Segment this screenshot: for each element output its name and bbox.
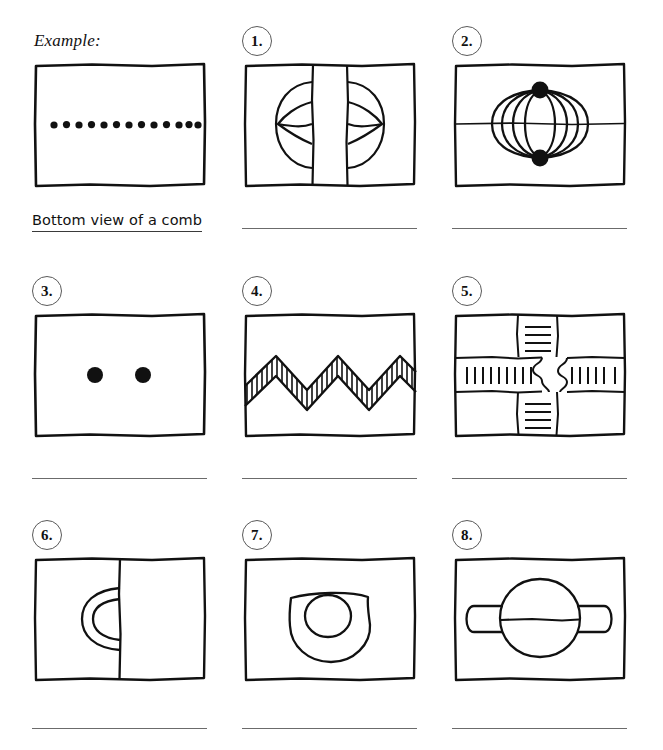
puzzle-figure-frame-5 <box>452 310 628 440</box>
puzzle-cell-5: 5. <box>422 264 632 514</box>
puzzle-header-4: 4. <box>242 274 272 308</box>
example-figure-frame <box>32 60 208 190</box>
answer-line-2[interactable] <box>452 228 627 229</box>
worksheet-page: Example: <box>0 0 663 750</box>
two-dots-icon <box>32 310 208 440</box>
puzzle-header-7: 7. <box>242 518 272 552</box>
puzzle-header-5: 5. <box>452 274 482 308</box>
puzzle-figure-frame-1 <box>242 60 418 190</box>
puzzle-header-6: 6. <box>32 518 62 552</box>
row-of-dots-icon <box>32 60 208 190</box>
puzzle-header-2: 2. <box>452 24 482 58</box>
puzzle-figure-frame-7 <box>242 554 418 684</box>
example-header: Example: <box>32 24 101 58</box>
circle-with-side-bars-icon <box>452 554 628 684</box>
puzzle-number-badge-8: 8. <box>452 520 482 550</box>
puzzle-number-badge-6: 6. <box>32 520 62 550</box>
example-label: Example: <box>32 31 101 51</box>
puzzle-cell-2: 2. <box>422 14 632 264</box>
globe-meridians-with-poles-icon <box>452 60 628 190</box>
puzzle-figure-frame-3 <box>32 310 208 440</box>
puzzle-cell-1: 1. <box>212 14 422 264</box>
puzzle-figure-frame-6 <box>32 554 208 684</box>
puzzle-figure-frame-8 <box>452 554 628 684</box>
interlocking-cross-bands-icon <box>452 310 628 440</box>
example-caption: Bottom view of a comb <box>32 212 202 232</box>
answer-line-7[interactable] <box>242 728 417 729</box>
puzzle-cell-4: 4. <box>212 264 422 514</box>
answer-line-6[interactable] <box>32 728 207 729</box>
answer-line-8[interactable] <box>452 728 627 729</box>
puzzle-header-1: 1. <box>242 24 272 58</box>
example-cell: Example: <box>2 14 212 264</box>
answer-line-4[interactable] <box>242 478 417 479</box>
puzzle-number-badge-4: 4. <box>242 276 272 306</box>
double-arc-at-vertical-line-icon <box>32 554 208 684</box>
puzzle-figure-frame-2 <box>452 60 628 190</box>
puzzle-header-3: 3. <box>32 274 62 308</box>
puzzle-cell-3: 3. <box>2 264 212 514</box>
puzzle-cell-7: 7. <box>212 508 422 750</box>
answer-line-5[interactable] <box>452 478 627 479</box>
puzzle-number-badge-7: 7. <box>242 520 272 550</box>
puzzle-cell-8: 8. <box>422 508 632 750</box>
puzzle-number-badge-2: 2. <box>452 26 482 56</box>
puzzle-number-badge-1: 1. <box>242 26 272 56</box>
puzzle-figure-frame-4 <box>242 310 418 440</box>
puzzle-number-badge-5: 5. <box>452 276 482 306</box>
puzzle-header-8: 8. <box>452 518 482 552</box>
hatched-zigzag-band-icon <box>242 310 418 440</box>
split-circle-with-lenses-icon <box>242 60 418 190</box>
puzzle-number-badge-3: 3. <box>32 276 62 306</box>
blob-with-small-circle-icon <box>242 554 418 684</box>
puzzle-cell-6: 6. <box>2 508 212 750</box>
answer-line-3[interactable] <box>32 478 207 479</box>
answer-line-1[interactable] <box>242 228 417 229</box>
